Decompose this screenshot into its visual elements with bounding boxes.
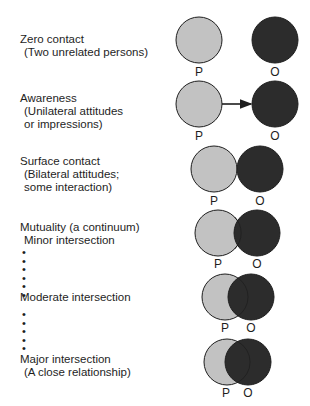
zero-contact-circles: P O (176, 17, 298, 79)
label-o: O (243, 386, 252, 400)
label-p: P (222, 386, 230, 400)
label-p: P (195, 65, 203, 79)
circle-o (237, 146, 283, 192)
label-o: O (255, 194, 264, 208)
label-p: P (221, 321, 229, 335)
relationship-diagram: P O P O P O P O P O P O (0, 0, 310, 406)
circle-o (252, 81, 298, 127)
circle-p (176, 17, 222, 63)
awareness-circles: P O (176, 81, 298, 143)
minor-intersection-circles: P O (195, 210, 280, 271)
label-p: P (195, 129, 203, 143)
circle-o (252, 17, 298, 63)
major-intersection-circles: P O (204, 339, 271, 400)
circle-p (191, 146, 237, 192)
circle-p (176, 81, 222, 127)
label-o: O (246, 321, 255, 335)
label-p: P (210, 194, 218, 208)
moderate-intersection-circles: P O (202, 274, 274, 335)
circle-o (228, 274, 274, 320)
label-o: O (270, 65, 279, 79)
surface-contact-circles: P O (191, 146, 283, 208)
circle-o (225, 339, 271, 385)
label-o: O (252, 257, 261, 271)
label-o: O (270, 129, 279, 143)
label-p: P (214, 257, 222, 271)
